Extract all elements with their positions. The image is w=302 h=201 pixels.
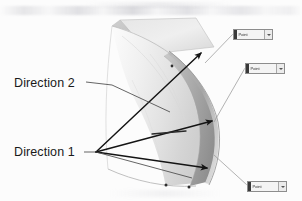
chevron-down-icon[interactable] <box>264 30 272 39</box>
endpoint-marker-edge <box>171 65 174 68</box>
endpoint-marker-top <box>165 184 168 187</box>
callout-label-2: Point <box>249 64 276 73</box>
callout-widget-1[interactable]: Point <box>233 29 273 40</box>
callout-1-leader <box>205 34 233 63</box>
chevron-down-icon[interactable] <box>278 182 286 191</box>
callout-2-leader <box>214 68 245 122</box>
callout-3-leader <box>214 155 247 185</box>
callout-label-1: Point <box>237 30 264 39</box>
direction-1-label: Direction 1 <box>14 145 75 159</box>
callout-widget-2[interactable]: Point <box>245 63 285 74</box>
diagram-canvas: Direction 2 Direction 1 Point Point Poin… <box>0 0 302 201</box>
callout-label-3: Point <box>251 182 278 191</box>
callout-widget-3[interactable]: Point <box>247 181 287 192</box>
direction-2-label: Direction 2 <box>14 76 75 90</box>
endpoint-marker-bottom <box>188 186 191 189</box>
chevron-down-icon[interactable] <box>276 64 284 73</box>
